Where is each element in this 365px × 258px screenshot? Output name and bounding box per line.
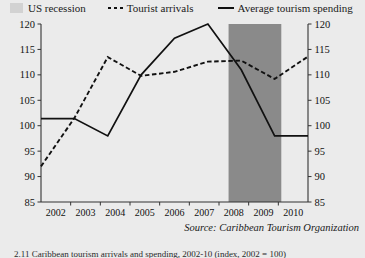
figure-caption: 2.11 Caribbean tourism arrivals and spen… xyxy=(0,249,365,258)
solid-line-swatch-icon xyxy=(218,3,234,13)
svg-text:2008: 2008 xyxy=(224,207,244,216)
svg-text:2003: 2003 xyxy=(76,207,96,216)
legend-item-tourist-arrivals: Tourist arrivals xyxy=(108,3,194,14)
svg-text:2009: 2009 xyxy=(254,207,274,216)
chart-svg: 859095100105110115120 859095100105110115… xyxy=(0,16,365,216)
recession-band-swatch-icon xyxy=(10,3,23,13)
recession-band-layer xyxy=(229,24,282,202)
x-axis-labels: 200220032004200520062007200820092010 xyxy=(46,207,303,216)
svg-text:115: 115 xyxy=(315,44,330,55)
svg-text:90: 90 xyxy=(25,171,36,182)
source-note: Source: Caribbean Tourism Organization xyxy=(184,222,359,233)
svg-text:85: 85 xyxy=(25,197,36,208)
svg-text:2005: 2005 xyxy=(135,207,155,216)
svg-text:120: 120 xyxy=(315,19,331,30)
svg-text:105: 105 xyxy=(315,95,331,106)
svg-text:100: 100 xyxy=(315,120,331,131)
legend-item-us-recession: US recession xyxy=(10,3,86,14)
svg-text:100: 100 xyxy=(19,120,35,131)
legend-label-us-recession: US recession xyxy=(28,3,86,14)
svg-text:95: 95 xyxy=(315,146,326,157)
svg-text:2007: 2007 xyxy=(194,207,214,216)
dashed-line-swatch-icon xyxy=(108,3,123,13)
svg-text:90: 90 xyxy=(315,171,326,182)
svg-text:105: 105 xyxy=(19,95,35,106)
chart-container: US recession Tourist arrivals Average to… xyxy=(0,0,365,258)
svg-text:95: 95 xyxy=(25,146,36,157)
svg-text:110: 110 xyxy=(315,69,330,80)
svg-text:2002: 2002 xyxy=(46,207,66,216)
plot-area: 859095100105110115120 859095100105110115… xyxy=(0,16,365,216)
y-axis-right-labels: 859095100105110115120 xyxy=(315,19,331,208)
svg-text:2010: 2010 xyxy=(283,207,303,216)
y-axis-left-labels: 859095100105110115120 xyxy=(19,19,35,208)
legend-item-average-tourism-spending: Average tourism spending xyxy=(218,3,353,14)
svg-text:85: 85 xyxy=(315,197,326,208)
svg-text:115: 115 xyxy=(20,44,35,55)
svg-text:110: 110 xyxy=(20,69,35,80)
svg-text:2004: 2004 xyxy=(105,207,125,216)
legend-label-average-tourism-spending: Average tourism spending xyxy=(238,3,353,14)
svg-text:120: 120 xyxy=(19,19,35,30)
legend-label-tourist-arrivals: Tourist arrivals xyxy=(127,3,194,14)
chart-legend: US recession Tourist arrivals Average to… xyxy=(0,0,365,16)
figure-caption-text: 2.11 Caribbean tourism arrivals and spen… xyxy=(0,249,365,258)
svg-text:2006: 2006 xyxy=(165,207,185,216)
